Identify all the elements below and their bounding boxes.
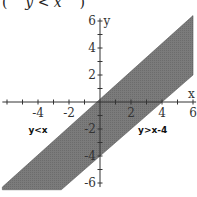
shaded-region <box>2 16 193 190</box>
y-tick-label: -6 <box>84 176 96 190</box>
inequality-plot: -4-2246642-2-4-6xyy<xy>x-4 <box>0 0 197 197</box>
region-annotation: y>x-4 <box>138 125 167 135</box>
y-tick-label: 4 <box>88 41 96 55</box>
x-tick-label: 4 <box>158 106 166 120</box>
region-annotation: y<x <box>28 125 47 135</box>
x-tick-label: 6 <box>189 106 197 120</box>
x-tick-label: -4 <box>32 106 44 120</box>
x-tick-label: -2 <box>63 106 75 120</box>
y-tick-label: 2 <box>88 68 96 82</box>
y-axis-label: y <box>103 14 111 28</box>
y-tick-label: -4 <box>84 149 96 163</box>
x-axis-label: x <box>188 87 195 101</box>
x-tick-label: 2 <box>127 106 135 120</box>
y-tick-label: 6 <box>88 14 96 28</box>
y-tick-label: -2 <box>84 122 96 136</box>
